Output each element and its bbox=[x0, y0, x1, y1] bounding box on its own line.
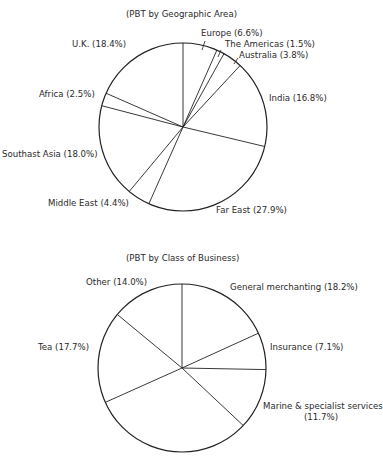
label-tea: Tea (17.7%) bbox=[38, 343, 89, 352]
label-general-merchanting: General merchanting (18.2%) bbox=[230, 283, 358, 292]
label-far-east: Far East (27.9%) bbox=[216, 206, 287, 215]
label-southeast-asia: Southast Asia (18.0%) bbox=[2, 150, 98, 159]
label-other: Other (14.0%) bbox=[86, 278, 147, 287]
chart2-title: (PBT by Class of Business) bbox=[126, 253, 239, 263]
label-india: India (16.8%) bbox=[269, 94, 327, 103]
label-marine-line1: Marine & specialist services bbox=[263, 402, 383, 411]
pie-chart-business bbox=[98, 284, 266, 452]
label-insurance: Insurance (7.1%) bbox=[270, 343, 343, 352]
chart1-title: (PBT by Geographic Area) bbox=[126, 9, 237, 19]
label-marine-line2: (11.7%) bbox=[304, 413, 338, 422]
label-uk: U.K. (18.4%) bbox=[72, 40, 126, 49]
label-middle-east: Middle East (4.4%) bbox=[48, 199, 129, 208]
label-americas: The Americas (1.5%) bbox=[225, 40, 315, 49]
label-africa: Africa (2.5%) bbox=[39, 90, 95, 99]
pie-chart-geographic bbox=[99, 41, 267, 211]
label-europe: Europe (6.6%) bbox=[201, 29, 263, 38]
label-australia: Australia (3.8%) bbox=[239, 51, 308, 60]
